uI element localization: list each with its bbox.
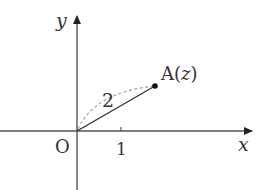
point-a-open-paren: ( bbox=[174, 63, 181, 84]
point-a-label: A(z) bbox=[160, 63, 198, 84]
y-axis-label: y bbox=[55, 9, 67, 31]
tick-label-1: 1 bbox=[116, 139, 127, 159]
point-a-dot bbox=[152, 83, 158, 89]
segment-oa bbox=[77, 86, 155, 131]
point-a-variable: z bbox=[180, 63, 191, 84]
point-a-name: A bbox=[160, 63, 175, 84]
origin-label: O bbox=[55, 136, 70, 157]
point-a-close-paren: ) bbox=[191, 63, 198, 84]
length-label: 2 bbox=[102, 89, 114, 111]
complex-plane-diagram: y x O 1 2 A(z) bbox=[0, 0, 275, 190]
x-axis-label: x bbox=[238, 133, 249, 155]
